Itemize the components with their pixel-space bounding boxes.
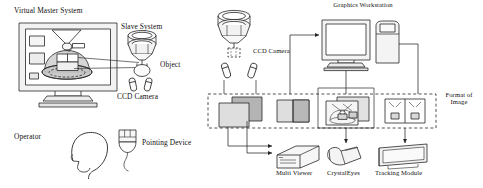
pointing-device bbox=[119, 130, 136, 171]
label-multi-viewer: Multi Viewer bbox=[276, 170, 312, 177]
crystal-eyes-device bbox=[328, 147, 361, 165]
multi-viewer-device bbox=[277, 146, 319, 168]
figure-canvas: Virtual Master System Slave System Objec… bbox=[0, 0, 483, 188]
label-operator: Operator bbox=[14, 133, 41, 141]
label-ccd-camera-left: CCD Camera bbox=[117, 93, 158, 101]
graphics-workstation bbox=[322, 20, 399, 71]
format-quad-split bbox=[385, 99, 425, 123]
diagram-svg bbox=[0, 0, 483, 188]
format-side-by-side bbox=[277, 100, 309, 122]
slave-manipulator bbox=[128, 31, 156, 77]
label-graphics-workstation: Graphics Workstation bbox=[333, 2, 393, 9]
label-crystal-eyes: CrystalEyes bbox=[327, 170, 360, 177]
slave-gripper-right bbox=[218, 10, 250, 57]
tracking-module-device bbox=[379, 144, 427, 169]
label-ccd-camera-right: CCD Camera bbox=[253, 48, 290, 55]
label-tracking-module: Tracking Module bbox=[375, 170, 422, 177]
label-format-of-image: Format of Image bbox=[438, 92, 480, 106]
label-pointing-device: Pointing Device bbox=[142, 139, 191, 147]
label-virtual-master-system: Virtual Master System bbox=[14, 7, 83, 15]
ccd-camera-pair-left bbox=[129, 77, 153, 91]
label-object: Object bbox=[160, 61, 180, 69]
format-overlaid-scene-views bbox=[326, 97, 369, 125]
label-slave-system: Slave System bbox=[121, 23, 162, 31]
ccd-camera-pair-right bbox=[221, 62, 258, 94]
operator-head bbox=[71, 132, 107, 179]
format-overlapping-frames bbox=[219, 97, 262, 127]
